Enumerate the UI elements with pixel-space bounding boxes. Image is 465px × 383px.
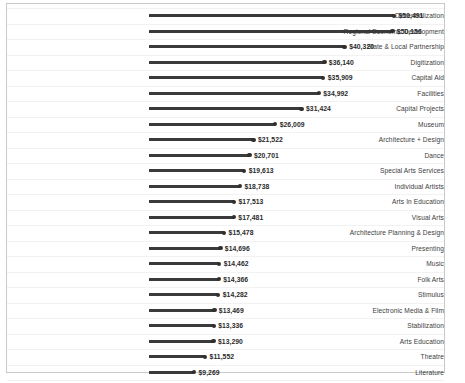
value-label: $13,469 — [219, 303, 244, 319]
chart-row[interactable]: Theatre$11,552 — [7, 349, 444, 365]
value-stem — [149, 61, 324, 64]
category-label: Capital Aid — [306, 70, 444, 86]
value-dot[interactable] — [273, 122, 277, 126]
value-stem — [149, 30, 392, 33]
chart-row[interactable]: Stimulus$14,282 — [7, 287, 444, 303]
chart-row[interactable]: Folk Arts$14,366 — [7, 272, 444, 288]
chart-row[interactable]: Facilities$34,992 — [7, 86, 444, 102]
chart-row[interactable]: State & Local Partnership$40,320 — [7, 39, 444, 55]
chart-row[interactable]: Special Arts Services$19,613 — [7, 163, 444, 179]
category-label: Dance — [306, 148, 444, 164]
chart-row[interactable]: Presenting$14,696 — [7, 241, 444, 257]
value-dot[interactable] — [222, 231, 226, 235]
value-dot[interactable] — [192, 370, 196, 374]
value-stem — [149, 200, 234, 203]
value-stem — [149, 371, 194, 374]
value-label: $15,478 — [229, 225, 254, 241]
value-stem — [149, 92, 319, 95]
value-label: $26,009 — [280, 117, 305, 133]
category-label: Architecture + Design — [306, 132, 444, 148]
value-dot[interactable] — [390, 29, 394, 33]
value-dot[interactable] — [232, 200, 236, 204]
value-stem — [149, 14, 394, 17]
value-stem — [149, 262, 219, 265]
chart-row[interactable]: Regional Economic Development$50,156 — [7, 24, 444, 40]
value-dot[interactable] — [342, 45, 346, 49]
chart-row[interactable]: Arts In Education$17,513 — [7, 194, 444, 210]
category-label: Theatre — [306, 349, 444, 365]
value-label: $18,738 — [244, 179, 269, 195]
value-dot[interactable] — [217, 262, 221, 266]
value-dot[interactable] — [242, 169, 246, 173]
value-stem — [149, 247, 220, 250]
value-dot[interactable] — [212, 324, 216, 328]
category-label: Folk Arts — [306, 272, 444, 288]
value-label: $40,320 — [349, 39, 374, 55]
value-dot[interactable] — [232, 215, 236, 219]
category-label: Special Arts Services — [306, 163, 444, 179]
chart-row[interactable]: Capital Projects$31,424 — [7, 101, 444, 117]
value-dot[interactable] — [238, 184, 242, 188]
category-label: Electronic Media & Film — [306, 303, 444, 319]
chart-row[interactable]: Digitization$36,140 — [7, 55, 444, 71]
value-dot[interactable] — [211, 339, 215, 343]
chart-row[interactable]: Visual Arts$17,481 — [7, 210, 444, 226]
value-label: $50,156 — [397, 24, 422, 40]
value-stem — [149, 154, 249, 157]
chart-row[interactable]: Dance$20,701 — [7, 148, 444, 164]
chart-row[interactable]: Music$14,462 — [7, 256, 444, 272]
value-dot[interactable] — [203, 355, 207, 359]
chart-row[interactable]: Decentralization$50,491 — [7, 8, 444, 24]
value-dot[interactable] — [217, 277, 221, 281]
value-dot[interactable] — [322, 60, 326, 64]
value-label: $50,491 — [398, 8, 423, 24]
chart-row[interactable]: Arts Education$13,290 — [7, 334, 444, 350]
value-label: $9,269 — [198, 365, 219, 381]
value-dot[interactable] — [251, 138, 255, 142]
value-label: $17,481 — [238, 210, 263, 226]
value-label: $19,613 — [249, 163, 274, 179]
chart-row[interactable]: Individual Artists$18,738 — [7, 179, 444, 195]
value-stem — [149, 340, 213, 343]
grid-line — [7, 380, 444, 381]
value-dot[interactable] — [247, 153, 251, 157]
value-dot[interactable] — [218, 246, 222, 250]
value-label: $11,552 — [210, 349, 235, 365]
category-label: Museum — [306, 117, 444, 133]
chart-row[interactable]: Electronic Media & Film$13,469 — [7, 303, 444, 319]
chart-row[interactable]: Capital Aid$35,909 — [7, 70, 444, 86]
category-label: Arts Education — [306, 334, 444, 350]
chart-row[interactable]: Literature$9,269 — [7, 365, 444, 381]
value-label: $17,513 — [238, 194, 263, 210]
value-stem — [149, 324, 214, 327]
value-dot[interactable] — [299, 107, 303, 111]
value-dot[interactable] — [216, 293, 220, 297]
value-label: $35,909 — [328, 70, 353, 86]
value-label: $14,462 — [224, 256, 249, 272]
value-stem — [149, 278, 219, 281]
chart-row[interactable]: Museum$26,009 — [7, 117, 444, 133]
chart-frame: Decentralization$50,491Regional Economic… — [6, 3, 445, 373]
value-label: $36,140 — [329, 55, 354, 71]
category-label: Presenting — [306, 241, 444, 257]
value-stem — [149, 216, 234, 219]
value-label: $21,522 — [258, 132, 283, 148]
value-stem — [149, 185, 240, 188]
value-dot[interactable] — [392, 14, 396, 18]
category-label: Stimulus — [306, 287, 444, 303]
value-label: $14,282 — [223, 287, 248, 303]
chart-row[interactable]: Architecture + Design$21,522 — [7, 132, 444, 148]
value-label: $31,424 — [306, 101, 331, 117]
category-label: Music — [306, 256, 444, 272]
value-dot[interactable] — [212, 308, 216, 312]
value-stem — [149, 123, 275, 126]
chart-row[interactable]: Architecture Planning & Design$15,478 — [7, 225, 444, 241]
value-label: $13,336 — [218, 318, 243, 334]
value-label: $14,696 — [225, 241, 250, 257]
chart-plot-area: Decentralization$50,491Regional Economic… — [7, 4, 444, 372]
category-label: Individual Artists — [306, 179, 444, 195]
value-label: $20,701 — [254, 148, 279, 164]
value-stem — [149, 76, 323, 79]
value-stem — [149, 355, 205, 358]
chart-row[interactable]: Stabilization$13,336 — [7, 318, 444, 334]
